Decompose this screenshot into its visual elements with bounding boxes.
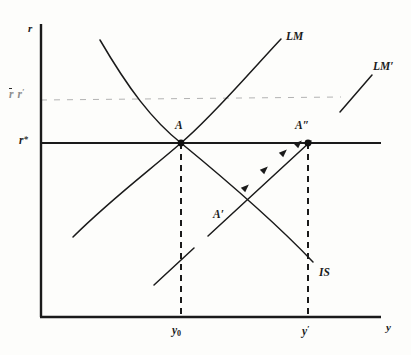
- r-star-level-label: r*: [19, 135, 28, 147]
- r-bar-guide-line: [41, 97, 341, 100]
- lm-curve: [100, 39, 281, 143]
- lm-curve-label: LM: [286, 31, 303, 43]
- is-lm-figure: r y rr′ r* LM LM′ IS A A′ A″ y0 y′: [0, 0, 411, 355]
- y0-subscript: 0: [177, 329, 181, 338]
- lm-prime-upper-segment: [340, 75, 372, 112]
- point-a-prime-label: A′: [213, 209, 224, 221]
- lm-prime-curve-label: LM′: [373, 61, 393, 73]
- lm-prime-lower-segment: [154, 248, 194, 285]
- r-bar-level-label: rr′: [9, 88, 25, 101]
- y-prime-tick-label: y′: [302, 325, 310, 338]
- point-a-double-prime-label: A″: [295, 120, 309, 132]
- point-a-dot: [178, 140, 185, 147]
- is-curve-label: IS: [319, 267, 330, 279]
- adjustment-path-arrows: [241, 138, 304, 192]
- y0-tick-label: y0: [172, 325, 181, 338]
- point-a-double-prime-dot: [305, 140, 312, 147]
- y-prime-mark: ′: [307, 324, 310, 334]
- figure-canvas: [0, 0, 411, 355]
- y-axis-label: r: [28, 23, 32, 34]
- is-curve: [73, 143, 313, 262]
- r-bar-prime-mark: ′: [22, 87, 25, 97]
- lm-prime-middle-segment: [208, 141, 311, 236]
- point-a-label: A: [175, 120, 183, 132]
- r-star-asterisk: *: [23, 134, 28, 144]
- r-bar-symbol: r: [9, 89, 13, 101]
- x-axis-label: y: [386, 322, 391, 333]
